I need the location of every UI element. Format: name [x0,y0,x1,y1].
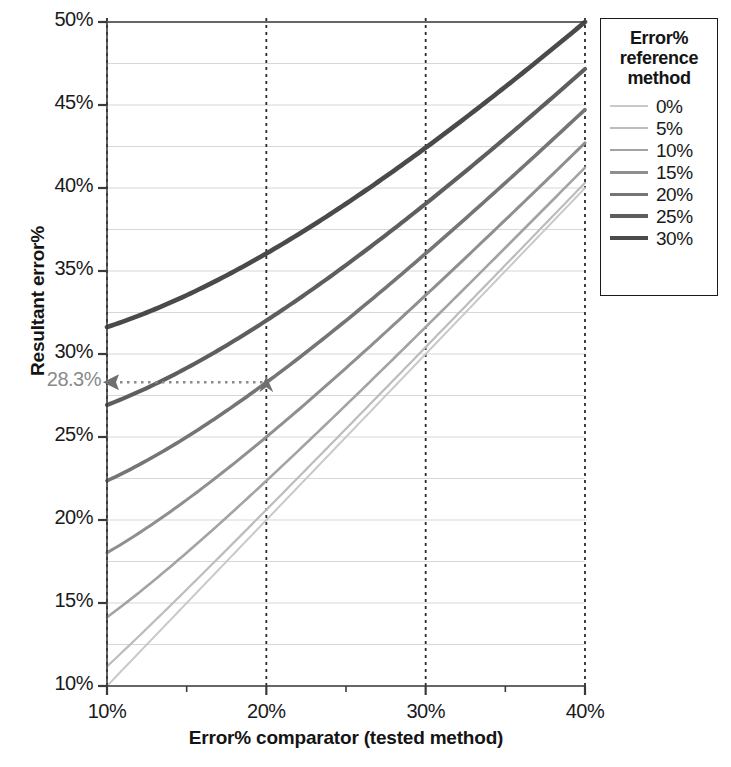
x-axis-tick-label: 10% [62,700,152,723]
legend-title-line-1: Error% [605,28,713,48]
series-line-20pct [107,110,585,481]
y-axis-tick-label: 10% [3,672,93,695]
y-axis-tick-label: 15% [3,589,93,612]
legend-item[interactable]: 25% [601,205,717,227]
legend-title-line-2: reference [605,48,713,68]
x-axis-tick-label: 20% [221,700,311,723]
annotation-arrowhead-left [103,374,119,390]
chart-figure: Resultant error% Error% comparator (test… [0,0,731,767]
legend-swatch-line [610,127,648,129]
annotation-arrowhead-up [259,376,273,392]
legend-item[interactable]: 5% [601,117,717,139]
legend-title: Error% reference method [601,28,717,88]
legend: Error% reference method 0%5%10%15%20%25%… [600,18,718,296]
annotation-value-label: 28.3% [11,368,101,391]
legend-item-label: 30% [656,229,693,248]
legend-swatch-line [610,149,648,151]
x-axis-title: Error% comparator (tested method) [107,727,585,749]
legend-swatch-line [610,214,648,218]
legend-item-label: 15% [656,163,693,182]
legend-item-label: 20% [656,185,693,204]
legend-item[interactable]: 10% [601,139,717,161]
series-line-0pct [107,188,585,686]
legend-item-label: 5% [656,119,682,138]
y-axis-tick-label: 45% [3,91,93,114]
series-line-5pct [107,183,585,667]
legend-item[interactable]: 20% [601,183,717,205]
y-axis-tick-label: 25% [3,423,93,446]
y-axis-tick-label: 40% [3,174,93,197]
legend-items: 0%5%10%15%20%25%30% [601,95,717,249]
legend-swatch-line [610,105,648,107]
series-line-25pct [107,69,585,405]
legend-item-label: 10% [656,141,693,160]
legend-title-line-3: method [605,68,713,88]
legend-item[interactable]: 15% [601,161,717,183]
series-line-30pct [107,22,585,327]
legend-item[interactable]: 0% [601,95,717,117]
y-axis-tick-label: 35% [3,257,93,280]
legend-swatch-line [610,236,648,240]
x-axis-tick-label: 40% [540,700,630,723]
y-axis-tick-label: 30% [3,340,93,363]
series-line-10pct [107,168,585,618]
legend-swatch-line [610,171,648,174]
legend-item-label: 25% [656,207,693,226]
y-axis-tick-label: 20% [3,506,93,529]
y-axis-tick-label: 50% [3,8,93,31]
legend-item-label: 0% [656,97,682,116]
legend-swatch-line [610,193,648,196]
legend-item[interactable]: 30% [601,227,717,249]
x-axis-tick-label: 30% [381,700,471,723]
series-line-15pct [107,143,585,553]
